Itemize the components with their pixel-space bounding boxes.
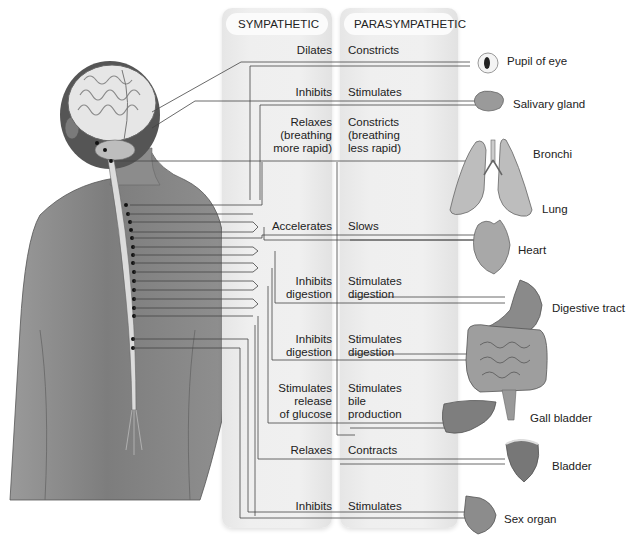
salivary-gland-icon [474,91,503,111]
organ-label-pupil: Pupil of eye [507,55,567,67]
liver-gallbladder-icon [442,400,496,433]
organ-label-salivary: Salivary gland [513,98,585,110]
organ-label-bronchi: Bronchi [533,148,572,160]
heart-icon [474,220,511,274]
organ-label-heart: Heart [518,244,546,256]
eye-icon [478,53,498,73]
autonomic-nervous-system-diagram: SYMPATHETIC PARASYMPATHETIC [0,0,630,547]
organ-label-lung: Lung [542,203,568,215]
organ-label-bladder: Bladder [552,460,592,472]
organ-illustrations [0,0,630,547]
organ-label-digestive: Digestive tract [552,302,625,314]
lungs-icon [450,139,532,216]
organ-label-gallbladder: Gall bladder [530,412,592,424]
organ-label-sex: Sex organ [504,513,556,525]
sex-organ-icon [464,496,496,534]
bladder-icon [506,440,539,482]
